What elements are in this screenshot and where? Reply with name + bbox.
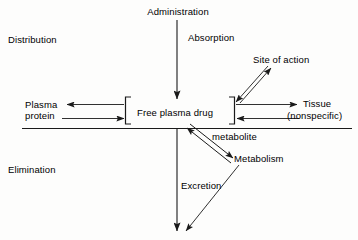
pharmacokinetics-diagram: Distribution Elimination Administration … [0,0,358,240]
node-tissue: Tissue [303,98,331,109]
left-bracket [126,97,132,124]
node-tissue-nonspecific: (nonspecific) [287,110,342,121]
section-label-elimination: Elimination [8,164,56,175]
metabolism-to-excretion-arrow [186,165,239,231]
node-plasma-protein-text: Plasma protein [25,99,57,121]
edge-label-metabolite: metabolite [212,131,257,142]
node-metabolism: Metabolism [234,153,284,164]
section-label-distribution: Distribution [8,34,57,45]
edge-label-excretion: Excretion [181,180,222,191]
plasma-protein-line-2: protein [25,110,55,121]
site-of-action-to-drug-arrow [236,66,268,102]
node-administration: Administration [147,6,209,17]
plasma-protein-line-1: Plasma [25,99,57,110]
right-bracket [229,97,235,124]
node-site-of-action: Site of action [253,54,309,65]
node-free-plasma-drug: Free plasma drug [137,107,213,118]
node-absorption: Absorption [188,32,234,43]
drug-to-site-of-action-arrow [240,68,271,103]
